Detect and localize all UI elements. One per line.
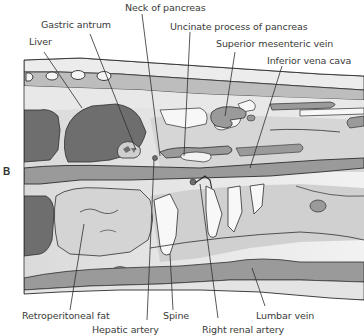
- liver: [24, 110, 60, 162]
- label-liver: Liver: [29, 37, 52, 47]
- label-neck-of-pancreas: Neck of pancreas: [125, 3, 206, 13]
- retroperitoneal-fat: [54, 188, 152, 256]
- label-lumbar-vein: Lumbar vein: [256, 311, 314, 321]
- label-right-renal-artery: Right renal artery: [202, 325, 284, 335]
- label-spine: Spine: [163, 311, 189, 321]
- label-inferior-vena-cava: Inferior vena cava: [267, 56, 351, 66]
- panel-letter: B: [3, 166, 10, 177]
- label-gastric-antrum: Gastric antrum: [41, 20, 111, 30]
- label-retroperitoneal-fat: Retroperitoneal fat: [22, 311, 110, 321]
- ultrasound-schematic: [0, 0, 364, 336]
- label-superior-mesenteric-vein: Superior mesenteric vein: [216, 39, 333, 49]
- label-uncinate-process: Uncinate process of pancreas: [170, 22, 308, 32]
- label-hepatic-artery: Hepatic artery: [92, 325, 159, 335]
- anatomy-diagram: B Neck of pancreas Gastric antrum Uncina…: [0, 0, 364, 336]
